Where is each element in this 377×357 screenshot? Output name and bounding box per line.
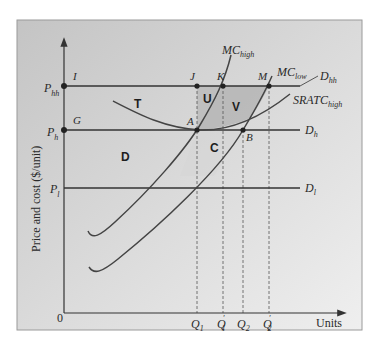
- point-label-a: A: [186, 115, 194, 127]
- region-label-u: U: [203, 92, 212, 106]
- x-axis-title: Units: [316, 316, 342, 330]
- region-label-v: V: [232, 100, 240, 114]
- y-axis-title: Price and cost ($/unit): [29, 146, 43, 252]
- region-label-d: D: [121, 150, 130, 164]
- region-label-t: T: [134, 97, 142, 111]
- quantity-label-q1-prime: Q′1: [217, 314, 226, 333]
- point-label-m: M: [257, 70, 268, 82]
- quantity-label-q2-prime: Q′2: [263, 314, 272, 333]
- point-label-g: G: [73, 114, 81, 126]
- cost-curve-diagram: Phh Ph Pl Dhh Dh Dl MChigh MClow SRATChi…: [0, 0, 377, 357]
- region-label-c: C: [210, 141, 219, 155]
- point-label-b: B: [246, 131, 253, 143]
- origin-label: 0: [57, 311, 63, 325]
- point-label-k: K: [216, 70, 225, 82]
